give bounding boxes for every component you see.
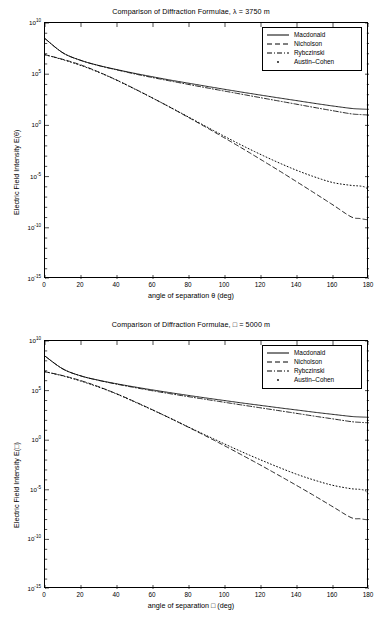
x-tick-label: 100 [219,281,230,288]
y-tick-label: 105 [10,386,41,394]
legend-item-austin-cohen: Austin–Cohen [265,375,358,384]
legend-item-rybczinski: Rybczinski [265,48,358,57]
series-line-austin-cohen [45,55,369,191]
x-tick-label: 180 [363,591,374,598]
x-tick-label: 40 [112,591,119,598]
legend-item-nicholson: Nicholson [265,39,358,48]
legend-item-austin-cohen: Austin–Cohen [265,57,358,66]
y-tick-label: 10-10 [10,534,41,542]
figure-lambda-5000: Comparison of Diffraction Formulae, □ = … [0,312,382,625]
legend-line-dashed-icon [265,357,291,366]
chart-title: Comparison of Diffraction Formulae, λ = … [0,7,382,16]
y-tick-label: 100 [10,435,41,443]
legend-marker-dot-icon [265,375,291,384]
x-tick-label: 60 [148,281,155,288]
x-tick-label: 120 [255,281,266,288]
legend-label: Rybczinski [291,367,325,374]
x-tick-label: 140 [291,591,302,598]
x-tick-label: 0 [42,281,46,288]
legend-line-dashed-icon [265,39,291,48]
legend-item-nicholson: Nicholson [265,357,358,366]
x-tick-label: 160 [327,591,338,598]
legend-label: Rybczinski [291,49,325,56]
figure-lambda-3750: Comparison of Diffraction Formulae, λ = … [0,0,382,312]
x-tick-label: 60 [148,591,155,598]
legend-label: Nicholson [291,358,322,365]
x-tick-label: 80 [184,591,191,598]
x-axis-label: angle of separation □ (deg) [0,601,382,610]
y-tick-label: 10-5 [10,485,41,493]
x-axis-label: angle of separation θ (deg) [0,291,382,300]
y-tick-label: 10-5 [10,172,41,180]
x-tick-label: 140 [291,281,302,288]
x-tick-label: 120 [255,591,266,598]
y-tick-label: 10-15 [10,274,41,282]
y-tick-label: 100 [10,120,41,128]
x-tick-label: 20 [76,281,83,288]
series-line-nicholson [45,55,369,220]
legend-label: Macdonald [291,31,325,38]
y-tick-label: 105 [10,69,41,77]
x-tick-label: 20 [76,591,83,598]
y-tick-label: 1010 [10,336,41,344]
x-tick-label: 40 [112,281,119,288]
y-tick-label: 10-10 [10,223,41,231]
legend-label: Austin–Cohen [291,376,334,383]
legend-line-solid-icon [265,30,291,39]
chart-title: Comparison of Diffraction Formulae, □ = … [0,320,382,329]
series-line-austin-cohen [45,372,369,495]
series-line-nicholson [45,372,369,520]
legend-line-solid-icon [265,348,291,357]
x-tick-label: 180 [363,281,374,288]
legend-label: Austin–Cohen [291,58,334,65]
legend-label: Macdonald [291,349,325,356]
legend-item-macdonald: Macdonald [265,30,358,39]
legend-line-dashdot-icon [265,366,291,375]
legend-item-rybczinski: Rybczinski [265,366,358,375]
y-tick-label: 10-15 [10,584,41,592]
legend-item-macdonald: Macdonald [265,348,358,357]
x-tick-label: 160 [327,281,338,288]
x-tick-label: 80 [184,281,191,288]
legend: Macdonald Nicholson Rybczinski Austin–Co… [262,27,362,71]
legend: Macdonald Nicholson Rybczinski Austin–Co… [262,345,362,389]
legend-line-dashdot-icon [265,48,291,57]
legend-label: Nicholson [291,40,322,47]
x-tick-label: 0 [42,591,46,598]
x-tick-label: 100 [219,591,230,598]
legend-marker-dot-icon [265,57,291,66]
y-tick-label: 1010 [10,18,41,26]
